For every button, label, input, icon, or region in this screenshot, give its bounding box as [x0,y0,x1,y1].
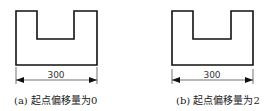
caption-a: (a) 起点偏移量为0 [14,92,97,107]
dimension-label-b: 300 [203,70,220,80]
dimension-label-a: 300 [47,70,64,80]
figure-b: 300 [172,11,253,84]
figure-a: 300 [16,11,97,84]
u-shape-outline-a [16,11,97,65]
caption-b: (b) 起点偏移量为2 [176,92,260,107]
u-shape-outline-b [172,11,253,65]
